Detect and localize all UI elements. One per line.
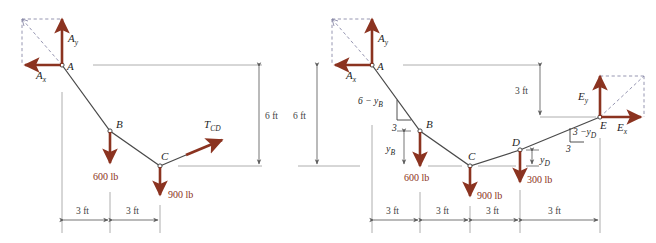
right-load-300-label: 300 lb xyxy=(527,174,552,185)
left-point-label-C: C xyxy=(161,150,169,162)
right-dim-3ft-AB-label: 3 ft xyxy=(386,206,399,216)
right-dim-3ft-DE-label: 3 ft xyxy=(548,206,561,216)
right-dim-3ft-CD-label: 3 ft xyxy=(486,206,499,216)
right-dim-6ft-label: 6 ft xyxy=(293,111,306,121)
left-dim-6ft-label: 6 ft xyxy=(265,111,278,121)
engineering-figure: Ay Ax A B C 600 lb 900 lb TCD 6 ft 3 ft … xyxy=(0,0,656,243)
left-point-label-A: A xyxy=(66,60,74,72)
right-slope-AB-run-label: 3 xyxy=(391,123,397,133)
right-point-label-A: A xyxy=(376,60,384,72)
left-load-900-label: 900 lb xyxy=(168,189,193,200)
right-point-label-E: E xyxy=(599,119,607,131)
right-point-label-D: D xyxy=(511,136,520,148)
left-dim-3ft-AB-label: 3 ft xyxy=(76,206,89,216)
right-load-600-label: 600 lb xyxy=(404,172,429,183)
right-load-900-label: 900 lb xyxy=(477,190,502,201)
right-slope-DE-run-label: 3 xyxy=(565,144,571,154)
left-load-600-label: 600 lb xyxy=(93,171,118,182)
right-point-label-B: B xyxy=(426,118,433,130)
right-dim-3ft-BC-label: 3 ft xyxy=(436,206,449,216)
left-dim-3ft-BC-label: 3 ft xyxy=(126,206,139,216)
right-dim-3ft-vert-label: 3 ft xyxy=(515,86,528,96)
left-point-label-B: B xyxy=(116,118,123,130)
cable-free-body-diagram-svg: Ay Ax A B C 600 lb 900 lb TCD 6 ft 3 ft … xyxy=(0,0,656,243)
right-point-label-C: C xyxy=(468,150,476,162)
